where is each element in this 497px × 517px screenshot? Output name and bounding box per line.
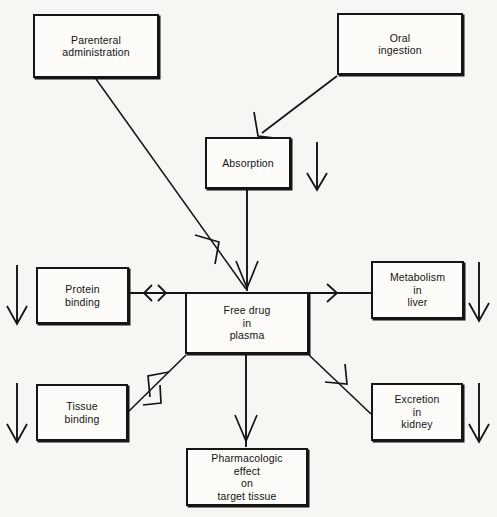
node-tissue-binding: Tissue binding	[36, 384, 128, 441]
edge-free-drug-to-excretion	[309, 355, 371, 414]
edge-oral-to-absorption	[254, 76, 337, 139]
node-label: Metabolism in liver	[387, 271, 448, 309]
node-label: Absorption	[219, 157, 277, 170]
node-label: Pharmacologic effect on target tissue	[208, 452, 285, 502]
node-label: Oral ingestion	[375, 32, 424, 57]
node-metabolism-in-liver: Metabolism in liver	[371, 261, 464, 319]
node-label: Parenteral administration	[59, 34, 132, 59]
edge-free-drug-to-pharm	[235, 355, 257, 447]
node-protein-binding: Protein binding	[36, 267, 129, 324]
node-oral-ingestion: Oral ingestion	[337, 13, 463, 75]
protein-flow-arrow	[7, 265, 27, 324]
edge-free-drug-to-tissue	[128, 355, 186, 412]
node-excretion-in-kidney: Excretion in kidney	[371, 383, 463, 441]
tissue-flow-arrow	[7, 383, 27, 442]
edge-free-drug-to-metabolism	[309, 284, 371, 302]
edge-protein-to-free-drug	[129, 285, 185, 301]
node-label: Tissue binding	[62, 400, 103, 425]
node-absorption: Absorption	[205, 137, 291, 189]
node-label: Free drug in plasma	[221, 304, 274, 342]
excretion-flow-arrow	[469, 383, 489, 442]
node-free-drug-in-plasma: Free drug in plasma	[185, 292, 309, 354]
node-parenteral-administration: Parenteral administration	[33, 14, 159, 78]
metabolism-flow-arrow	[469, 262, 489, 321]
node-label: Protein binding	[62, 283, 103, 308]
node-pharmacologic-effect: Pharmacologic effect on target tissue	[186, 448, 308, 506]
absorption-flow-arrow	[307, 142, 327, 190]
edge-absorption-to-free-drug	[236, 189, 258, 291]
node-label: Excretion in kidney	[391, 393, 442, 431]
diagram-canvas: Parenteral administration Oral ingestion…	[0, 0, 497, 517]
